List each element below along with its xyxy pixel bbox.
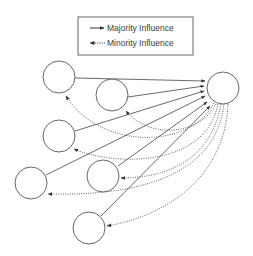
node-G-target (207, 72, 239, 104)
nodes (15, 61, 239, 244)
edge-majority-A-G (75, 78, 205, 81)
edge-minority-G-F (107, 104, 228, 226)
legend: Majority Influence Minority Influence (78, 17, 193, 55)
edge-majority-C-G (75, 91, 204, 131)
node-B (96, 79, 128, 111)
node-F (73, 212, 105, 244)
node-E (87, 160, 119, 192)
node-C (43, 120, 75, 152)
edge-majority-B-G (128, 86, 204, 97)
edge-minority-G-B (126, 104, 216, 130)
legend-label-majority: Majority Influence (107, 23, 174, 33)
influence-diagram: Majority Influence Minority Influence (0, 0, 253, 256)
edge-majority-F-G (101, 106, 210, 216)
legend-label-minority: Minority Influence (107, 38, 174, 48)
edge-majority-E-G (118, 102, 207, 166)
node-A (43, 61, 75, 93)
node-D (15, 167, 47, 199)
edge-minority-G-C (74, 104, 218, 159)
